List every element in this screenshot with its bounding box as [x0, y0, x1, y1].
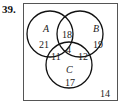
region-outside: 14: [100, 88, 110, 99]
region-a-only: 21: [39, 39, 49, 50]
venn-diagram: A 21 B 19 18 11 4 12 C 17 14: [0, 0, 120, 102]
region-bc: 12: [78, 51, 88, 62]
label-c: C: [66, 64, 73, 75]
region-abc: 4: [66, 44, 71, 55]
region-ab: 18: [62, 29, 72, 40]
label-b: B: [93, 23, 99, 34]
region-ac: 11: [51, 51, 61, 62]
region-c-only: 17: [65, 77, 75, 88]
label-a: A: [42, 23, 50, 34]
region-b-only: 19: [93, 39, 103, 50]
